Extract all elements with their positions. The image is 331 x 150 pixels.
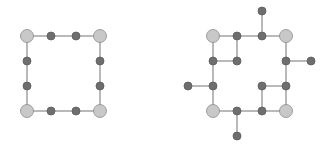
graph-node [184,82,192,90]
diagram-canvas [0,0,331,150]
graph-node [258,7,266,15]
graph-node [233,32,241,40]
graph-node [23,82,31,90]
graph-node [72,32,80,40]
corner-node [21,30,34,43]
graph-node [258,82,266,90]
corner-node [94,30,107,43]
corner-node [21,105,34,118]
graph-node [209,82,217,90]
graph-diagram [0,0,331,150]
corner-node [280,105,293,118]
graph-node [96,82,104,90]
graph-node [72,107,80,115]
graph-node [209,57,217,65]
graph-node [47,32,55,40]
graph-node [233,132,241,140]
graph-node [282,82,290,90]
corner-node [207,30,220,43]
graph-node [47,107,55,115]
graph-node [258,107,266,115]
corner-node [94,105,107,118]
graph-node [233,57,241,65]
right-graph [184,7,315,140]
graph-node [96,57,104,65]
graph-node [307,57,315,65]
corner-node [280,30,293,43]
left-graph [21,30,107,118]
graph-node [258,32,266,40]
graph-node [23,57,31,65]
graph-node [233,107,241,115]
corner-node [207,105,220,118]
graph-node [282,57,290,65]
